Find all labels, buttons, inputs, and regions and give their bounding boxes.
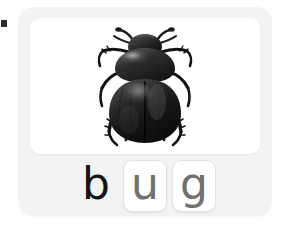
letter-glyph-b: b	[82, 162, 110, 206]
letter-tile-u[interactable]: u	[123, 160, 167, 212]
letter-tile-g[interactable]: g	[172, 160, 216, 212]
letter-glyph-g: g	[180, 162, 208, 206]
letter-glyph-u: u	[131, 162, 159, 206]
letter-tile-b[interactable]: b	[74, 160, 118, 212]
beetle-image	[89, 24, 201, 148]
picture-panel	[30, 18, 260, 154]
word-card: b u g	[18, 7, 272, 216]
cursor-marker-icon	[1, 20, 7, 27]
letters-row: b u g	[18, 160, 272, 216]
screen: b u g	[0, 0, 287, 226]
